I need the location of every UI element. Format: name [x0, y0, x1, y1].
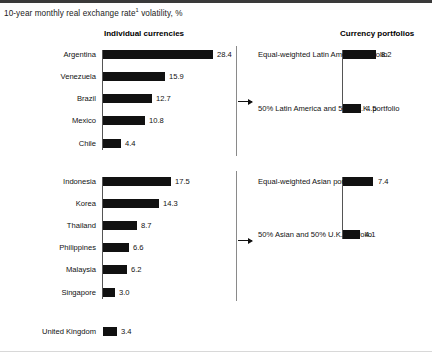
- row-label-korea: Korea: [4, 199, 96, 208]
- value-argentina: 28.4: [217, 50, 232, 59]
- row-label-singapore: Singapore: [4, 288, 96, 297]
- bar-korea: [103, 199, 159, 208]
- row-label-philippines: Philippines: [4, 243, 96, 252]
- value-venezuela: 15.9: [169, 72, 184, 81]
- row-label-mexico: Mexico: [4, 116, 96, 125]
- bar-philippines: [103, 243, 129, 252]
- value-thailand: 8.7: [141, 221, 152, 230]
- value-philippines: 6.6: [133, 243, 144, 252]
- divider-latam: [236, 46, 237, 156]
- row-label-argentina: Argentina: [4, 50, 96, 59]
- bar-thailand: [103, 221, 137, 230]
- bar-argentina: [103, 50, 213, 59]
- value-chile: 4.4: [125, 139, 136, 148]
- value-mexico: 10.8: [149, 116, 164, 125]
- row-label-asian-uk-portfolio: 50% Asian and 50% U.K. portfolio: [258, 230, 336, 240]
- header-currency-portfolios: Currency portfolios: [340, 29, 414, 38]
- top-rule: [0, 0, 432, 3]
- page-title-text: 10-year monthly real exchange rate: [4, 9, 136, 18]
- bar-united-kingdom: [103, 327, 117, 336]
- bar-brazil: [103, 94, 152, 103]
- value-united-kingdom: 3.4: [121, 327, 132, 336]
- row-label-latam-uk-portfolio: 50% Latin America and 50% U.K. portfolio: [258, 104, 336, 114]
- value-equal-weighted-latam-portfolio: 8.2: [381, 50, 392, 59]
- row-label-equal-weighted-latam-portfolio: Equal-weighted Latin America portfolio: [258, 50, 336, 60]
- value-korea: 14.3: [163, 199, 178, 208]
- row-label-thailand: Thailand: [4, 221, 96, 230]
- header-individual-currencies: Individual currencies: [104, 29, 184, 38]
- value-asian-uk-portfolio: 4.1: [365, 230, 376, 239]
- row-label-indonesia: Indonesia: [4, 177, 96, 186]
- value-malaysia: 6.2: [131, 265, 142, 274]
- bar-equal-weighted-asian-portfolio: [343, 177, 373, 186]
- bar-singapore: [103, 288, 115, 297]
- bar-latam-uk-portfolio: [343, 104, 361, 113]
- bottom-rule: [0, 351, 432, 352]
- arrow-asia: [238, 240, 252, 241]
- row-label-united-kingdom: United Kingdom: [4, 327, 96, 336]
- arrow-latam: [238, 101, 252, 102]
- value-equal-weighted-asian-portfolio: 7.4: [378, 177, 389, 186]
- page-title: 10-year monthly real exchange rate1 vola…: [4, 9, 183, 18]
- row-label-equal-weighted-asian-portfolio: Equal-weighted Asian portfolio: [258, 177, 336, 187]
- bar-malaysia: [103, 265, 127, 274]
- bar-asian-uk-portfolio: [343, 230, 360, 239]
- row-label-brazil: Brazil: [4, 94, 96, 103]
- chart-page: 10-year monthly real exchange rate1 vola…: [0, 0, 432, 358]
- page-title-suffix: volatility, %: [139, 9, 183, 18]
- value-latam-uk-portfolio: 4.5: [366, 104, 377, 113]
- axis-line-asia-currencies: [102, 177, 103, 299]
- value-singapore: 3.0: [119, 288, 130, 297]
- value-indonesia: 17.5: [175, 177, 190, 186]
- value-brazil: 12.7: [156, 94, 171, 103]
- bar-mexico: [103, 116, 145, 125]
- row-label-chile: Chile: [4, 139, 96, 148]
- bar-indonesia: [103, 177, 171, 186]
- row-label-venezuela: Venezuela: [4, 72, 96, 81]
- bar-chile: [103, 139, 121, 148]
- bar-equal-weighted-latam-portfolio: [343, 50, 376, 59]
- row-label-malaysia: Malaysia: [4, 265, 96, 274]
- divider-asia: [236, 171, 237, 301]
- bar-venezuela: [103, 72, 165, 81]
